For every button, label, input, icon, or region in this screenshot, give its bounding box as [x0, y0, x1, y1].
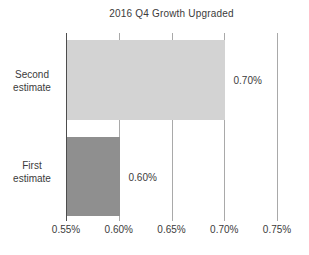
- chart-title: 2016 Q4 Growth Upgraded: [66, 8, 277, 19]
- bar-row: 0.70%: [67, 40, 277, 120]
- bar-chart: 2016 Q4 Growth Upgraded Second estimate …: [0, 0, 309, 255]
- category-label-second-estimate: Second estimate: [2, 68, 62, 94]
- bar-second-estimate: [67, 40, 225, 120]
- bar-value-label: 0.70%: [234, 75, 262, 86]
- category-label-first-estimate: First estimate: [2, 159, 62, 185]
- gridline: [277, 33, 278, 221]
- x-tick-label: 0.65%: [157, 224, 185, 235]
- x-tick-label: 0.55%: [52, 224, 80, 235]
- bar-row: 0.60%: [67, 137, 277, 216]
- plot-area: 0.70% 0.60%: [66, 33, 277, 217]
- x-tick-label: 0.70%: [210, 224, 238, 235]
- x-tick-label: 0.60%: [105, 224, 133, 235]
- x-axis-ticks: 0.55%0.60%0.65%0.70%0.75%: [66, 224, 277, 238]
- bar-value-label: 0.60%: [129, 171, 157, 182]
- x-tick-label: 0.75%: [263, 224, 291, 235]
- bar-first-estimate: [67, 137, 120, 216]
